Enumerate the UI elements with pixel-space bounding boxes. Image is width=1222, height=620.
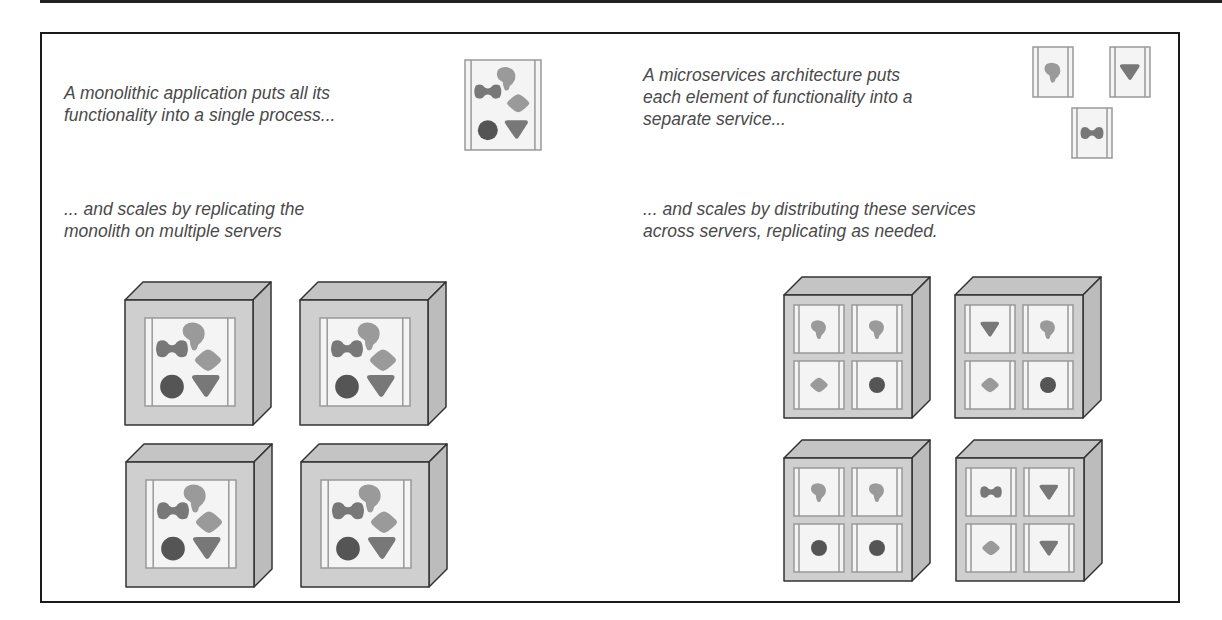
service-panel <box>852 524 902 572</box>
circle-icon <box>811 540 827 556</box>
circle-icon <box>336 537 360 561</box>
monolith-app-panel <box>465 60 541 150</box>
diagram-canvas <box>0 0 1222 620</box>
monolith-app-panel <box>320 318 410 406</box>
circle-icon <box>161 537 185 561</box>
monolith-app-panel <box>321 480 411 568</box>
monolith-server-1 <box>125 282 271 425</box>
monolith-app-panel <box>145 318 235 406</box>
monolith-server-3 <box>126 444 272 587</box>
service-panel <box>794 524 844 572</box>
service-panel <box>965 305 1015 353</box>
service-panel <box>1110 47 1150 97</box>
monolith-app-panel <box>146 480 236 568</box>
service-panel <box>966 468 1016 516</box>
circle-icon <box>869 540 885 556</box>
service-panel <box>794 361 844 409</box>
service-panel <box>1024 468 1074 516</box>
service-panel <box>794 468 844 516</box>
circle-icon <box>335 375 359 399</box>
circle-icon <box>1040 377 1056 393</box>
service-panel <box>1033 47 1073 97</box>
service-panel <box>1023 361 1073 409</box>
monolith-server-2 <box>300 282 446 425</box>
service-panel <box>1024 524 1074 572</box>
microservice-server-3 <box>784 440 930 581</box>
service-panel <box>1072 108 1112 158</box>
microservice-server-2 <box>955 277 1101 418</box>
circle-icon <box>160 375 184 399</box>
service-panel <box>852 361 902 409</box>
service-panel <box>852 305 902 353</box>
microservice-server-1 <box>784 277 930 418</box>
service-panel <box>966 524 1016 572</box>
service-panel <box>852 468 902 516</box>
circle-icon <box>478 120 498 140</box>
service-panel <box>965 361 1015 409</box>
microservice-server-4 <box>956 440 1102 581</box>
monolith-server-4 <box>301 444 447 587</box>
service-panel <box>794 305 844 353</box>
circle-icon <box>869 377 885 393</box>
service-panel <box>1023 305 1073 353</box>
